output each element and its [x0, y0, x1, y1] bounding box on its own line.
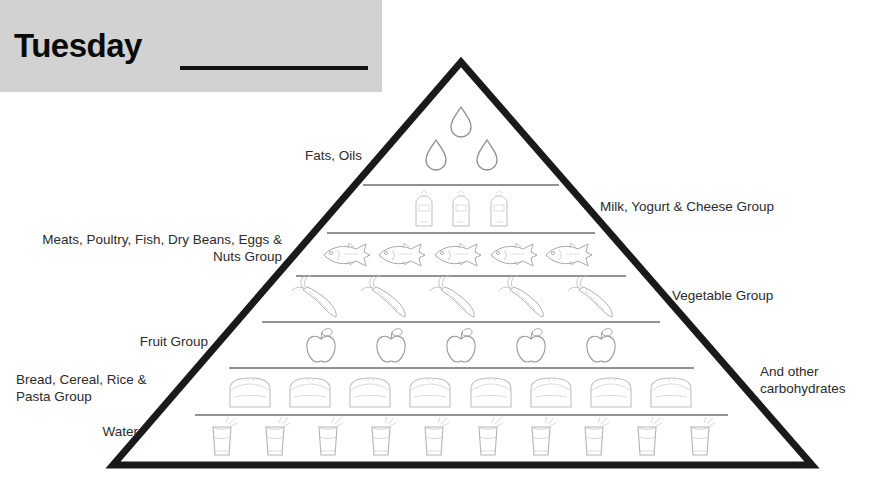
oil-droplet-icon: [451, 107, 471, 137]
worksheet-page: Tuesday: [0, 0, 880, 484]
fish-icon: [379, 243, 425, 266]
label-milk-group: Milk, Yogurt & Cheese Group: [600, 198, 774, 215]
water-glass-icon: [425, 417, 449, 455]
tier-bread-group-items: [230, 378, 691, 407]
water-glass-icon: [479, 417, 503, 455]
label-fats-oils: Fats, Oils: [305, 147, 362, 164]
water-glass-icon: [638, 417, 662, 455]
apple-icon: [377, 329, 405, 362]
tier-vegetable-items: [292, 275, 612, 317]
fish-icon: [324, 243, 370, 266]
carrot-icon: [568, 275, 612, 317]
bread-slice-icon: [531, 378, 571, 407]
tier-meat-group-items: [324, 243, 592, 266]
carrot-icon: [292, 275, 336, 317]
bread-slice-icon: [591, 378, 631, 407]
apple-icon: [447, 329, 475, 362]
milk-carton-icon: [491, 191, 507, 226]
water-glass-icon: [691, 417, 715, 455]
label-other-carbs: And other carbohydrates: [760, 363, 880, 397]
label-water: Water: [102, 423, 138, 440]
label-vegetable-group: Vegetable Group: [672, 287, 773, 304]
water-glass-icon: [372, 417, 396, 455]
oil-droplet-icon: [477, 140, 497, 170]
tier-water-items: [213, 417, 715, 455]
bread-slice-icon: [651, 378, 691, 407]
fish-icon: [546, 243, 592, 266]
oil-droplet-icon: [426, 140, 446, 170]
milk-carton-icon: [453, 191, 469, 226]
bread-slice-icon: [471, 378, 511, 407]
bread-slice-icon: [350, 378, 390, 407]
water-glass-icon: [319, 417, 343, 455]
carrot-icon: [430, 275, 474, 317]
fish-icon: [435, 243, 481, 266]
label-bread-group: Bread, Cereal, Rice & Pasta Group: [16, 371, 256, 405]
tier-dividers: [195, 185, 728, 415]
apple-icon: [307, 329, 335, 362]
label-fruit-group: Fruit Group: [140, 333, 208, 350]
water-glass-icon: [532, 417, 556, 455]
label-meats-group: Meats, Poultry, Fish, Dry Beans, Eggs & …: [0, 231, 282, 265]
carrot-icon: [499, 275, 543, 317]
fish-icon: [491, 243, 537, 266]
bread-slice-icon: [410, 378, 450, 407]
apple-icon: [517, 329, 545, 362]
tier-milk-group-items: [416, 191, 507, 226]
tier-fats-oils-items: [426, 107, 497, 170]
carrot-icon: [361, 275, 405, 317]
bread-slice-icon: [290, 378, 330, 407]
apple-icon: [587, 329, 615, 362]
water-glass-icon: [266, 417, 290, 455]
tier-fruit-items: [307, 329, 615, 362]
water-glass-icon: [213, 417, 237, 455]
water-glass-icon: [585, 417, 609, 455]
milk-carton-icon: [416, 191, 432, 226]
